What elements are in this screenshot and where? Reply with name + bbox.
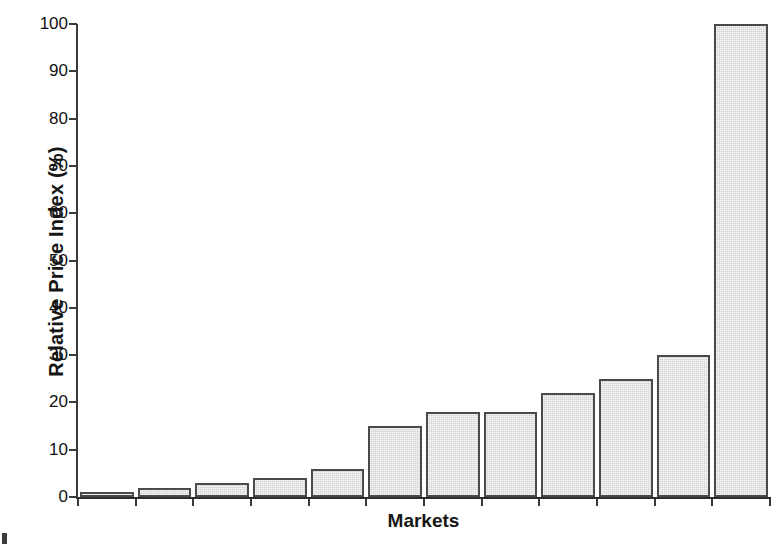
- bar: [195, 483, 249, 497]
- x-axis-label: Markets: [76, 510, 771, 532]
- bar: [714, 24, 768, 497]
- x-tick-mark: [711, 499, 713, 506]
- bar: [426, 412, 480, 497]
- y-tick-label: 0: [59, 488, 68, 505]
- bar: [657, 355, 711, 497]
- plot-area: [78, 24, 770, 497]
- x-tick-mark: [192, 499, 194, 506]
- y-tick-label: 30: [49, 346, 68, 363]
- x-tick-mark: [596, 499, 598, 506]
- bar: [311, 469, 365, 497]
- y-tick-label: 50: [49, 252, 68, 269]
- y-tick-label: 100: [40, 15, 68, 32]
- x-tick-mark: [250, 499, 252, 506]
- x-tick-mark: [308, 499, 310, 506]
- y-tick-label: 10: [49, 441, 68, 458]
- bar: [253, 478, 307, 497]
- bar: [484, 412, 538, 497]
- x-tick-mark: [365, 499, 367, 506]
- bar: [599, 379, 653, 497]
- bar: [368, 426, 422, 497]
- y-tick-label: 80: [49, 110, 68, 127]
- x-tick-mark: [654, 499, 656, 506]
- bar-chart-figure: Relative Price Index (%) 010203040506070…: [0, 0, 782, 546]
- y-tick-label: 70: [49, 157, 68, 174]
- x-tick-mark: [135, 499, 137, 506]
- x-tick-mark: [769, 499, 771, 506]
- bar: [138, 488, 192, 497]
- y-tick-label: 20: [49, 393, 68, 410]
- y-tick-label: 90: [49, 62, 68, 79]
- y-tick-label: 60: [49, 204, 68, 221]
- bar: [541, 393, 595, 497]
- x-tick-mark: [538, 499, 540, 506]
- y-tick-label: 40: [49, 299, 68, 316]
- x-tick-mark: [77, 499, 79, 506]
- x-tick-mark: [481, 499, 483, 506]
- scan-artifact: [2, 533, 7, 544]
- bar: [80, 492, 134, 497]
- x-tick-mark: [423, 499, 425, 506]
